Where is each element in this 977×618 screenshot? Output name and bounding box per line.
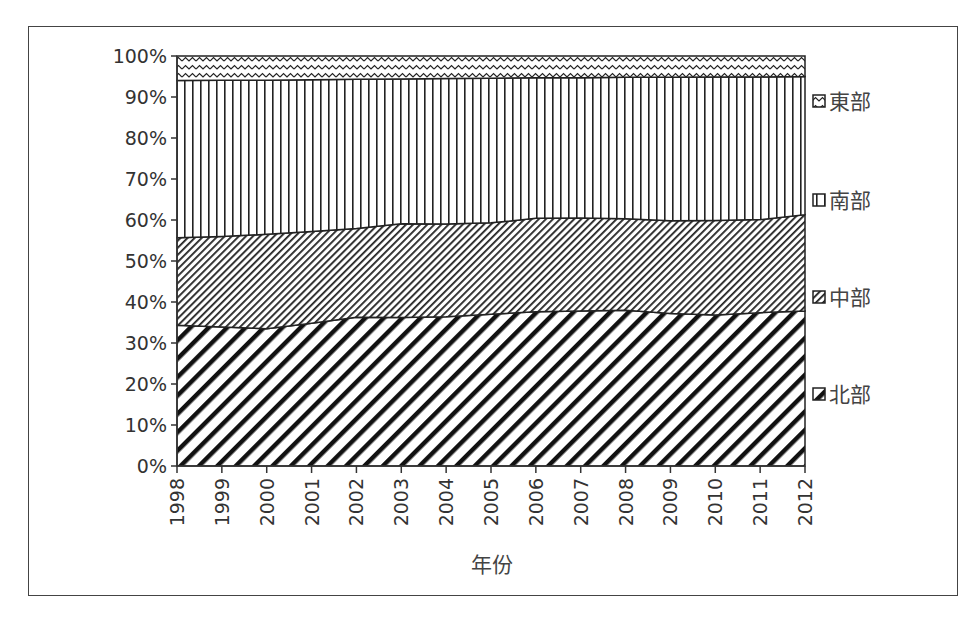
y-tick-label: 20%	[125, 373, 167, 395]
x-tick-label: 2003	[390, 478, 412, 526]
x-tick-label: 2012	[794, 478, 816, 526]
plot-area	[177, 56, 805, 466]
legend-swatch-icon	[813, 291, 825, 303]
y-tick-label: 100%	[113, 45, 167, 67]
legend-item: 北部	[813, 383, 871, 407]
x-tick-label: 2007	[570, 478, 592, 526]
x-tick-label: 2010	[704, 478, 726, 526]
y-tick-label: 70%	[125, 168, 167, 190]
x-axis: 1998199920002001200220032004200520062007…	[166, 466, 816, 526]
legend-label: 北部	[829, 383, 871, 407]
x-tick-label: 2009	[659, 478, 681, 526]
x-tick-label: 2006	[525, 478, 547, 526]
x-tick-label: 2000	[256, 478, 278, 526]
area-wave	[177, 56, 805, 81]
y-tick-label: 10%	[125, 414, 167, 436]
legend: 東部南部中部北部	[813, 90, 871, 407]
stacked-area-chart: 0%10%20%30%40%50%60%70%80%90%100% 199819…	[0, 0, 977, 618]
y-tick-label: 40%	[125, 291, 167, 313]
legend-item: 東部	[813, 90, 871, 114]
y-tick-label: 50%	[125, 250, 167, 272]
legend-label: 中部	[829, 286, 871, 310]
x-tick-label: 2005	[480, 478, 502, 526]
y-tick-label: 80%	[125, 127, 167, 149]
x-tick-label: 2002	[345, 478, 367, 526]
x-tick-label: 2004	[435, 478, 457, 526]
x-tick-label: 2008	[615, 478, 637, 526]
x-tick-label: 2011	[749, 478, 771, 526]
y-tick-label: 0%	[137, 455, 167, 477]
legend-label: 南部	[829, 189, 871, 213]
x-tick-label: 1999	[211, 478, 233, 526]
y-tick-label: 90%	[125, 86, 167, 108]
legend-swatch-icon	[813, 388, 825, 400]
x-axis-title: 年份	[471, 553, 513, 577]
legend-label: 東部	[829, 90, 871, 114]
legend-swatch-icon	[813, 95, 825, 107]
y-tick-label: 30%	[125, 332, 167, 354]
area-vertical-lines	[177, 77, 805, 238]
legend-item: 南部	[813, 189, 871, 213]
area-thick-diagonal	[177, 310, 805, 466]
x-tick-label: 2001	[301, 478, 323, 526]
y-tick-label: 60%	[125, 209, 167, 231]
legend-item: 中部	[813, 286, 871, 310]
x-tick-label: 1998	[166, 478, 188, 526]
legend-swatch-icon	[813, 194, 825, 206]
y-axis: 0%10%20%30%40%50%60%70%80%90%100%	[113, 45, 177, 477]
